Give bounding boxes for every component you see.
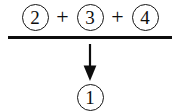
circled-number-3-label: 3 — [85, 8, 95, 27]
circled-number-4: 4 — [132, 4, 159, 31]
circled-number-2: 2 — [22, 4, 49, 31]
circled-number-1-label: 1 — [85, 87, 95, 106]
premise-row: 2 + 3 + 4 — [0, 2, 180, 33]
plus-operator-1: + — [49, 6, 77, 28]
down-arrow-icon — [78, 44, 102, 82]
plus-operator-2: + — [104, 6, 132, 28]
circled-number-1: 1 — [77, 84, 104, 111]
horizontal-inference-bar — [8, 36, 172, 39]
conclusion-row: 1 — [0, 83, 180, 111]
inference-diagram: 2 + 3 + 4 1 — [0, 0, 180, 112]
circled-number-3: 3 — [77, 4, 104, 31]
circled-number-2-label: 2 — [30, 8, 40, 27]
circled-number-4-label: 4 — [140, 8, 150, 27]
